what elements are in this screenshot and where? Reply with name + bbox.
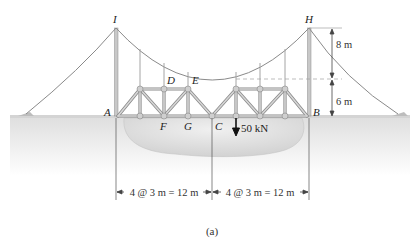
suspension-bridge-diagram: 8 m 6 m 4 @ 3 m = 12 m 4 @ 3 m = 12 m 50… <box>0 0 419 244</box>
cable-left-back <box>26 28 116 114</box>
label-H: H <box>304 13 314 25</box>
dim-span-right: 4 @ 3 m = 12 m <box>226 187 295 198</box>
dim-tower-upper: 8 m <box>336 39 352 50</box>
truss-joints <box>137 86 288 119</box>
label-D: D <box>166 74 175 86</box>
label-C: C <box>215 120 223 132</box>
label-E: E <box>191 74 199 86</box>
label-B: B <box>313 106 320 118</box>
joint <box>185 113 191 119</box>
label-F: F <box>159 120 167 132</box>
joint <box>161 113 167 119</box>
label-A: A <box>103 106 111 118</box>
truss-highlight <box>118 89 307 116</box>
label-G: G <box>184 120 192 132</box>
main-cable <box>116 28 309 80</box>
figure-caption: (a) <box>206 225 219 238</box>
joint <box>233 86 239 92</box>
truss <box>118 89 307 116</box>
joint <box>185 86 191 92</box>
dim-span-left: 4 @ 3 m = 12 m <box>130 187 199 198</box>
joint <box>257 113 263 119</box>
joint <box>137 86 143 92</box>
load-label: 50 kN <box>241 122 268 134</box>
joint <box>257 86 263 92</box>
dim-tower-lower: 6 m <box>336 96 352 107</box>
right-anchorage <box>392 112 408 116</box>
joint <box>282 113 288 119</box>
tower-right <box>308 28 312 116</box>
joint <box>137 113 143 119</box>
joint <box>282 86 288 92</box>
joint <box>161 86 167 92</box>
height-dimension <box>330 29 334 116</box>
label-I: I <box>112 13 118 25</box>
hangers <box>140 49 285 89</box>
tower-left <box>115 28 119 116</box>
